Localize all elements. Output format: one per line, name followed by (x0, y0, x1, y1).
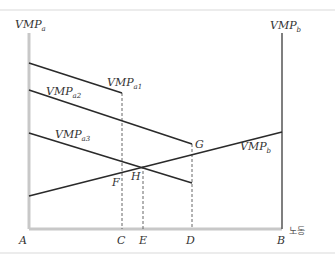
point-label-g: G (195, 138, 204, 151)
x-unit-label: 노동 (289, 226, 305, 236)
right-axis-label: VMPb (270, 19, 302, 34)
label-vmp-a2: VMPa2 (46, 85, 82, 100)
tick-label-a: A (18, 234, 27, 247)
label-vmp-a3: VMPa3 (55, 128, 91, 143)
point-label-f: F (111, 176, 120, 189)
curve-vmp-a2 (29, 90, 192, 144)
point-label-h: H (130, 170, 141, 183)
left-axis-label: VMPa (15, 18, 46, 33)
tick-label-c: C (117, 234, 126, 247)
tick-label-e: E (138, 234, 147, 247)
label-vmp-b: VMPb (240, 140, 272, 155)
tick-label-d: D (185, 234, 195, 247)
label-vmp-a1: VMPa1 (107, 76, 142, 91)
labor-allocation-diagram: VMPa VMPb VMPa1 VMPa2 VMPa3 VMPb G F H A… (0, 0, 335, 262)
tick-label-b: B (276, 234, 285, 247)
